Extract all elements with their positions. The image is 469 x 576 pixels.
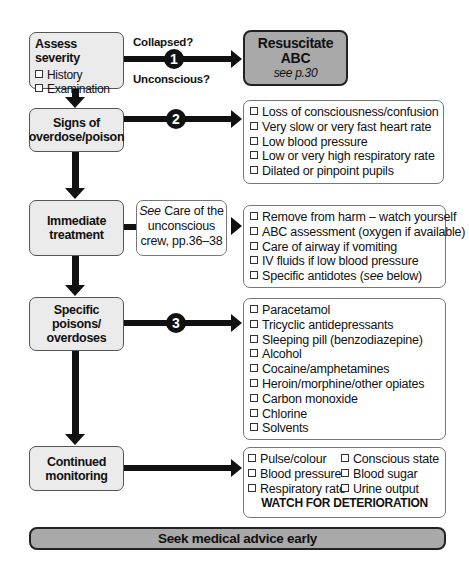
connector-treatment-to-poisons: [72, 256, 79, 286]
monitoring-col1: Pulse/colour Blood pressure Respiratory …: [248, 452, 341, 496]
treatment-list: Remove from harm – watch yourself ABC as…: [243, 205, 446, 288]
checkbox-icon: [248, 469, 256, 477]
checkbox-icon: [250, 349, 258, 357]
monitoring-list: Pulse/colour Blood pressure Respiratory …: [243, 447, 446, 518]
poison-item: Sleeping pill (benzodiazepine): [250, 333, 439, 348]
signs-title-line2: overdose/poison: [29, 130, 125, 144]
checkbox-icon: [35, 84, 43, 92]
treatment-box: Immediate treatment: [29, 200, 124, 256]
monitoring-item: Blood pressure: [248, 467, 341, 482]
checkbox-icon: [250, 242, 258, 250]
checkbox-icon: [341, 469, 349, 477]
treatment-item: Care of airway if vomiting: [250, 240, 439, 255]
treatment-item: ABC assessment (oxygen if available): [250, 225, 439, 240]
checkbox-icon: [250, 107, 258, 115]
monitoring-item: Blood sugar: [341, 467, 439, 482]
poison-item: Chlorine: [250, 407, 439, 422]
monitoring-item: Conscious state: [341, 452, 439, 467]
checkbox-icon: [250, 256, 258, 264]
poison-item: Cocaine/amphetamines: [250, 362, 439, 377]
monitoring-title-line2: monitoring: [45, 469, 107, 483]
poison-item: Alcohol: [250, 347, 439, 362]
poison-item: Tricyclic antidepressants: [250, 318, 439, 333]
assess-item-examination: Examination: [35, 82, 110, 96]
monitoring-item: Urine output: [341, 482, 439, 497]
poisons-title-line1: Specific: [54, 303, 100, 317]
assess-severity-title: Assess severity: [35, 37, 118, 65]
checkbox-icon: [250, 137, 258, 145]
poison-item: Carbon monoxide: [250, 392, 439, 407]
arrow-down-icon: [65, 285, 85, 296]
connector-poisons-to-monitoring: [72, 350, 79, 435]
checkbox-icon: [248, 484, 256, 492]
monitoring-item: Pulse/colour: [248, 452, 341, 467]
checkbox-icon: [250, 409, 258, 417]
checkbox-icon: [250, 305, 258, 313]
signs-item: Dilated or pinpoint pupils: [250, 164, 437, 179]
treatment-title-line1: Immediate: [47, 214, 106, 228]
arrow-right-icon: [231, 50, 242, 68]
question-unconscious: Unconscious?: [133, 73, 210, 85]
checkbox-icon: [250, 271, 258, 279]
signs-list: Loss of consciousness/confusion Very slo…: [243, 100, 444, 184]
poisons-title-line2: poisons/: [52, 317, 101, 331]
checkbox-icon: [341, 454, 349, 462]
treatment-item: Specific antidotes (see below): [250, 269, 439, 284]
poison-item: Solvents: [250, 421, 439, 436]
connector-signs-to-treatment: [72, 152, 79, 189]
signs-item: Loss of consciousness/confusion: [250, 105, 437, 120]
monitoring-col2: Conscious state Blood sugar Urine output: [341, 452, 439, 496]
monitoring-title-line1: Continued: [47, 455, 106, 469]
signs-title-line1: Signs of: [53, 116, 100, 130]
signs-box: Signs of overdose/poison: [29, 108, 124, 152]
arrow-right-icon: [231, 459, 242, 477]
poison-item: Heroin/morphine/other opiates: [250, 377, 439, 392]
arrow-down-icon: [65, 434, 85, 445]
seek-advice-bar: Seek medical advice early: [29, 527, 446, 550]
checkbox-icon: [250, 394, 258, 402]
signs-item: Very slow or very fast heart rate: [250, 120, 437, 135]
checkbox-icon: [250, 212, 258, 220]
checkbox-icon: [250, 335, 258, 343]
checkbox-icon: [250, 423, 258, 431]
resuscitate-ref[interactable]: see p.30: [274, 66, 318, 80]
checkbox-icon: [250, 364, 258, 372]
treatment-item: IV fluids if low blood pressure: [250, 254, 439, 269]
see-italic: See: [139, 204, 161, 218]
poisons-list: Paracetamol Tricyclic antidepressants Sl…: [243, 298, 446, 440]
see-care-box[interactable]: See Care of the unconscious crew, pp.36–…: [136, 200, 227, 256]
checkbox-icon: [248, 454, 256, 462]
checkbox-icon: [250, 320, 258, 328]
assess-item-history: History: [35, 68, 110, 82]
checkbox-icon: [250, 379, 258, 387]
arrow-right-icon: [231, 217, 242, 235]
checkbox-icon: [250, 227, 258, 235]
arrow-down-icon: [65, 188, 85, 199]
checkbox-icon: [250, 151, 258, 159]
poison-item: Paracetamol: [250, 303, 439, 318]
step-badge-1: 1: [164, 49, 184, 69]
connector-monitoring-to-list: [124, 465, 232, 471]
monitoring-item: Respiratory rate: [248, 482, 341, 497]
watch-warning: WATCH FOR DETERIORATION: [248, 496, 441, 511]
arrow-right-icon: [231, 314, 242, 332]
monitoring-box: Continued monitoring: [29, 446, 124, 491]
treatment-item: Remove from harm – watch yourself: [250, 210, 439, 225]
signs-item: Low blood pressure: [250, 135, 437, 150]
resuscitate-title: Resuscitate: [258, 36, 333, 51]
treatment-title-line2: treatment: [49, 228, 103, 242]
arrow-down-icon: [65, 97, 85, 108]
checkbox-icon: [341, 484, 349, 492]
checkbox-icon: [35, 70, 43, 78]
checkbox-icon: [250, 122, 258, 130]
step-badge-3: 3: [166, 313, 186, 333]
assess-severity-box: Assess severity History Examination: [29, 32, 124, 89]
question-collapsed: Collapsed?: [133, 36, 193, 48]
step-badge-2: 2: [166, 109, 186, 129]
resuscitate-abc: ABC: [281, 51, 310, 66]
signs-item: Low or very high respiratory rate: [250, 149, 437, 164]
seek-advice-label: Seek medical advice early: [158, 532, 317, 546]
poisons-box: Specific poisons/ overdoses: [29, 297, 124, 351]
checkbox-icon: [250, 166, 258, 174]
resuscitate-box: Resuscitate ABC see p.30: [243, 30, 348, 86]
